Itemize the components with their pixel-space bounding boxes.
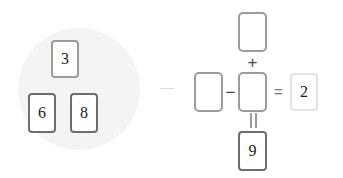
tray-card-value: 8 <box>80 105 88 121</box>
equals-bar <box>250 113 252 128</box>
operator-minus: − <box>223 84 238 101</box>
equation-card-bottom[interactable]: 9 <box>238 131 267 171</box>
operator-equals-vertical <box>238 113 267 129</box>
tray-board-divider <box>160 88 174 89</box>
tray-card[interactable]: 6 <box>28 93 56 133</box>
equation-slot-top[interactable] <box>238 12 267 52</box>
equals-bar <box>255 113 257 128</box>
puzzle-root: 3 6 8 + − = 2 <box>0 0 343 178</box>
tray-card-value: 3 <box>61 51 69 67</box>
tray-card[interactable]: 8 <box>70 93 98 133</box>
operator-plus: + <box>238 54 267 71</box>
equation-card-right-value: 2 <box>300 84 308 100</box>
equation-card-bottom-value: 9 <box>249 143 257 159</box>
equation-slot-center[interactable] <box>238 72 267 112</box>
equation-board: + − = 2 9 <box>174 0 343 178</box>
card-tray: 3 6 8 <box>0 0 160 178</box>
tray-card-value: 6 <box>38 105 46 121</box>
operator-equals-horizontal: = <box>267 84 290 99</box>
equation-slot-left[interactable] <box>194 72 223 112</box>
tray-card[interactable]: 3 <box>51 40 79 78</box>
equation-card-right[interactable]: 2 <box>290 73 318 111</box>
